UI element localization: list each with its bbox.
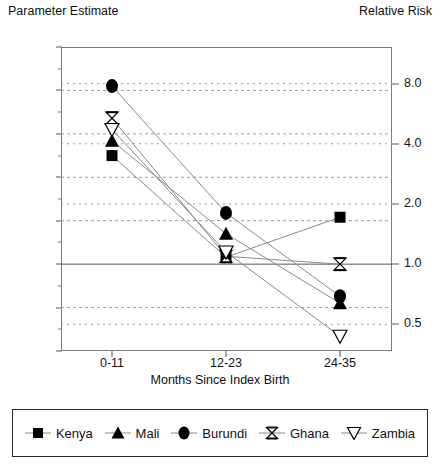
y-right-tick-label: 8.0 bbox=[404, 76, 421, 90]
plot-area bbox=[61, 47, 392, 351]
filled-circle-icon bbox=[171, 426, 197, 440]
legend-item-kenya[interactable]: Kenya bbox=[25, 426, 93, 441]
legend-label: Kenya bbox=[56, 426, 93, 441]
legend-label: Burundi bbox=[202, 426, 247, 441]
data-point-mali bbox=[219, 227, 233, 240]
data-point-kenya bbox=[107, 150, 118, 161]
filled-triangle-up-icon bbox=[105, 426, 131, 440]
data-point-burundi bbox=[334, 289, 346, 303]
legend-label: Mali bbox=[136, 426, 160, 441]
right-axis-title: Relative Risk bbox=[359, 4, 432, 18]
x-tick-label: 24-35 bbox=[300, 356, 380, 370]
x-tick-label: 12-23 bbox=[186, 356, 266, 370]
y-right-tick-label: 4.0 bbox=[404, 136, 421, 150]
data-point-burundi bbox=[106, 79, 118, 93]
left-axis-title: Parameter Estimate bbox=[8, 4, 118, 18]
y-right-tick-label: 2.0 bbox=[404, 196, 421, 210]
y-right-tick-label: 1.0 bbox=[404, 256, 421, 270]
data-point-zambia bbox=[333, 330, 347, 343]
x-axis-label: Months Since Index Birth bbox=[0, 373, 440, 387]
data-point-ghana bbox=[106, 112, 118, 124]
legend-item-ghana[interactable]: Ghana bbox=[259, 426, 329, 441]
hourglass-icon bbox=[259, 426, 285, 440]
data-point-kenya bbox=[335, 212, 346, 223]
y-right-tick-label: 0.5 bbox=[404, 316, 421, 330]
legend-item-zambia[interactable]: Zambia bbox=[341, 426, 415, 441]
legend-item-burundi[interactable]: Burundi bbox=[171, 426, 247, 441]
chart-legend: KenyaMaliBurundiGhanaZambia bbox=[12, 409, 428, 457]
legend-label: Zambia bbox=[372, 426, 415, 441]
x-tick-label: 0-11 bbox=[72, 356, 152, 370]
open-triangle-down-icon bbox=[341, 426, 367, 440]
data-point-burundi bbox=[220, 206, 232, 220]
chart-canvas: Parameter Estimate Relative Risk 2.521.5… bbox=[0, 0, 440, 476]
legend-item-mali[interactable]: Mali bbox=[105, 426, 160, 441]
filled-square-icon bbox=[25, 426, 51, 440]
data-series-layer bbox=[61, 47, 392, 351]
legend-label: Ghana bbox=[290, 426, 329, 441]
